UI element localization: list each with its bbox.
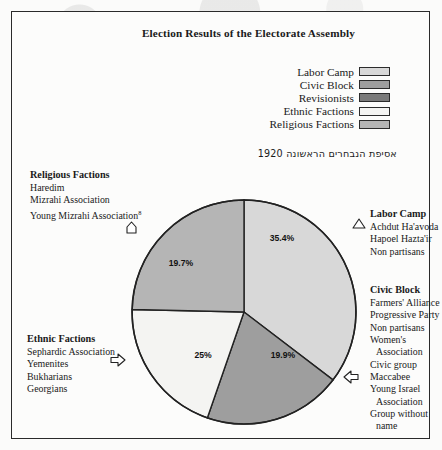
legend-item-label: Ethnic Factions (283, 105, 359, 117)
legend-swatch-labor-camp (359, 67, 390, 76)
annotation-title: Labor Camp (370, 208, 438, 220)
annotation-item: Non partisans (370, 246, 438, 258)
annotation-religious-factions: Religious Factions Haredim Mizrahi Assoc… (30, 169, 141, 222)
annotation-item: Sephardic Association (27, 346, 115, 358)
figure-frame: Election Results of the Electorate Assem… (11, 11, 430, 439)
legend-item: Labor Camp (170, 65, 390, 78)
annotation-title: Civic Block (370, 284, 440, 296)
annotation-item: Progressive Party (370, 309, 440, 321)
annotation-item: Farmers' Alliance (370, 297, 440, 309)
legend-item-label: Revisionists (299, 92, 359, 104)
legend-swatch-revisionists (359, 93, 390, 102)
legend-item: Religious Factions (170, 118, 390, 131)
legend-item: Revisionists (170, 91, 390, 104)
annotation-item: Non partisans (370, 322, 440, 334)
annotation-item: Civic group (370, 359, 440, 371)
annotation-item: Yemenites (27, 358, 115, 370)
annotation-ethnic-factions: Ethnic Factions Sephardic Association Ye… (27, 333, 115, 395)
pie-label-labor-camp: 35.4% (270, 233, 295, 243)
annotation-item-text: Young Mizrahi Association (30, 210, 138, 221)
annotation-item: Georgians (27, 383, 115, 395)
annotation-title: Ethnic Factions (27, 333, 115, 345)
legend-item-label: Religious Factions (270, 118, 359, 130)
legend-item-label: Labor Camp (297, 66, 359, 78)
annotation-item: Women's (370, 334, 440, 346)
annotation-item: Young Mizrahi Association8 (30, 207, 141, 223)
annotation-item: Association (370, 396, 440, 408)
page-title: Election Results of the Electorate Assem… (12, 27, 429, 39)
legend-swatch-religious-factions (359, 120, 390, 129)
legend-item-label: Civic Block (300, 79, 359, 91)
pie-slice-religious-factions (132, 200, 244, 312)
pie-label-religious-factions: 19.7% (169, 258, 194, 268)
pie-label-civic-block: 19.9% (271, 350, 296, 360)
annotation-title: Religious Factions (30, 169, 141, 181)
annotation-item: Young Israel (370, 383, 440, 395)
annotation-civic-block: Civic Block Farmers' Alliance Progressiv… (370, 284, 440, 433)
annotation-item: Maccabee (370, 371, 440, 383)
legend-item: Civic Block (170, 78, 390, 91)
annotation-item: name (370, 420, 440, 432)
legend-swatch-civic-block (359, 80, 390, 89)
pointer-arrow-icon (343, 370, 359, 384)
page-background: Election Results of the Electorate Assem… (0, 0, 442, 450)
hebrew-caption: אסיפת הנבחרים הראשונה 1920 (258, 148, 397, 159)
pie-chart: 35.4% 19.9% 25% 19.7% (120, 188, 368, 436)
annotation-item: Haredim (30, 182, 141, 194)
legend-item: Ethnic Factions (170, 105, 390, 118)
pie-label-ethnic-factions: 25% (194, 350, 212, 360)
chart-legend: Labor Camp Civic Block Revisionists Ethn… (170, 65, 390, 131)
annotation-item: Group without (370, 408, 440, 420)
annotation-item: Hapoel Hazta'ir (370, 233, 438, 245)
annotation-item: Achdut Ha'avoda (370, 221, 438, 233)
annotation-item: Bukharians (27, 371, 115, 383)
annotation-labor-camp: Labor Camp Achdut Ha'avoda Hapoel Hazta'… (370, 208, 438, 258)
footnote-marker: 8 (138, 209, 141, 216)
annotation-item: Mizrahi Association (30, 194, 141, 206)
annotation-item: Association (370, 346, 440, 358)
pointer-arrow-icon (351, 217, 367, 231)
legend-swatch-ethnic-factions (359, 107, 390, 116)
